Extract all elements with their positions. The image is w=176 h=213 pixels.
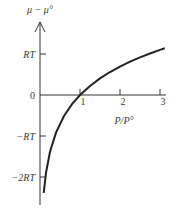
y-tick-label: 0	[30, 90, 35, 101]
x-axis-label: P/P°	[114, 115, 134, 126]
y-tick-label: −2RT	[12, 172, 37, 183]
y-tick-label: −RT	[17, 131, 37, 142]
ticks: 123RT0−RT−2RT	[12, 49, 166, 183]
x-tick-label: 2	[121, 96, 126, 107]
x-tick-label: 1	[81, 96, 86, 107]
x-tick-label: 3	[161, 96, 166, 107]
y-axis-label: μ − μ°	[26, 4, 53, 15]
chart: μ − μ° 123RT0−RT−2RT P/P°	[0, 0, 176, 213]
y-tick-label: RT	[22, 49, 36, 60]
data-series-curve	[44, 48, 165, 193]
